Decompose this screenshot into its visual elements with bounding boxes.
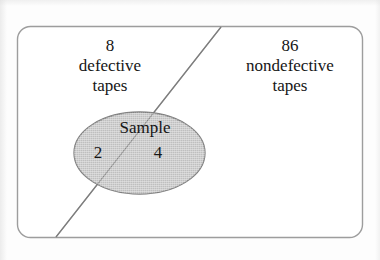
defective-count: 8 <box>35 36 185 56</box>
sample-nondefective-count: 4 <box>143 143 173 163</box>
defective-tapes-label: 8 defective tapes <box>35 36 185 96</box>
nondefective-word-2: tapes <box>215 76 365 96</box>
defective-word-2: tapes <box>35 76 185 96</box>
sample-label: Sample <box>95 118 195 138</box>
defective-word-1: defective <box>35 56 185 76</box>
nondefective-tapes-label: 86 nondefective tapes <box>215 36 365 96</box>
nondefective-word-1: nondefective <box>215 56 365 76</box>
sample-defective-count: 2 <box>83 143 113 163</box>
nondefective-count: 86 <box>215 36 365 56</box>
figure-canvas: 8 defective tapes 86 nondefective tapes … <box>0 0 380 260</box>
